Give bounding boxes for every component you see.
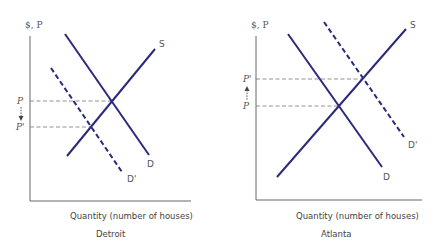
demand-label: D [147,159,154,169]
y-axis-label: $, P [251,20,269,30]
price-label-p: P [16,96,24,106]
demand-label: D [383,172,390,182]
demand-curve-d [65,34,149,155]
y-axis-label: $, P [25,20,43,30]
demand-curve-d-prime [51,68,122,172]
supply-curve-s [67,49,155,156]
supply-curve-s [277,29,406,177]
demand-prime-label: D' [127,174,136,184]
demand-prime-label: D' [408,140,417,150]
supply-demand-diagrams: $, P S D D' P P' Quantity (number of hou… [0,0,435,251]
atlanta-chart: $, P S D D' P' P Quantity (number of hou… [242,20,422,239]
price-label-p-prime: P' [15,122,25,132]
price-down-arrow-icon [19,116,24,121]
detroit-chart: $, P S D D' P P' Quantity (number of hou… [15,20,193,239]
supply-label: S [410,20,416,30]
x-axis-label: Quantity (number of houses) [296,211,419,221]
demand-curve-d-prime [324,22,404,137]
chart-caption: Atlanta [321,229,352,239]
price-label-p: P [242,101,250,111]
price-label-p-prime: P' [242,74,252,84]
chart-caption: Detroit [96,229,126,239]
x-axis-label: Quantity (number of houses) [70,211,193,221]
supply-label: S [159,39,165,49]
